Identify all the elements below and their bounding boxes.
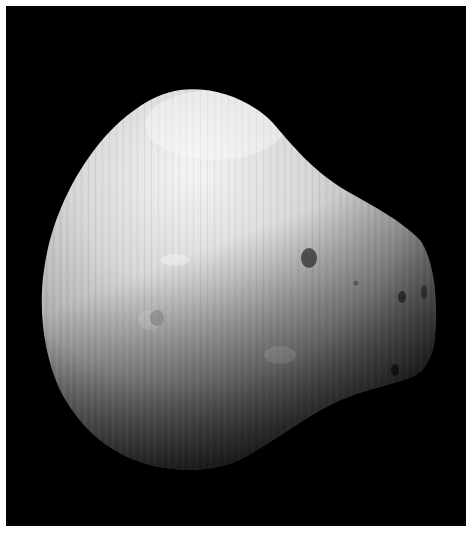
image-caption — [0, 527, 472, 535]
moon-body — [6, 6, 466, 526]
deimos-moon-image — [6, 6, 466, 526]
photo-frame — [6, 6, 466, 526]
